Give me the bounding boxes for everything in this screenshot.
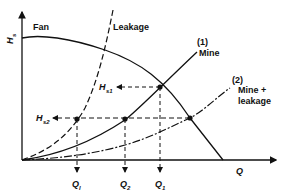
svg-text:H: H — [99, 82, 106, 92]
svg-text:H: H — [5, 37, 15, 44]
svg-text:Q: Q — [72, 179, 79, 189]
mine-curve-number: (1) — [197, 37, 208, 47]
svg-text:s1: s1 — [106, 88, 113, 94]
hs1-projection — [117, 84, 163, 172]
mine-leakage-curve-label-line2: leakage — [238, 96, 271, 106]
svg-text:Q: Q — [155, 179, 162, 189]
q1-label: Q 1 — [155, 179, 166, 191]
leakage-point — [74, 116, 79, 121]
mine-curve — [22, 52, 197, 160]
svg-text:s2: s2 — [43, 119, 50, 125]
mine-leakage-curve-number: (2) — [232, 75, 243, 85]
svg-text:1: 1 — [162, 185, 166, 191]
svg-text:2: 2 — [126, 185, 131, 191]
operating-point-1 — [157, 84, 162, 89]
fan-mine-characteristic-diagram: H s Q Fan Leakage (1) Mine (2) Mine + le… — [0, 0, 287, 193]
svg-text:s: s — [11, 33, 17, 37]
fan-curve-label: Fan — [33, 22, 49, 32]
hs2-label: H s2 — [36, 113, 50, 125]
mine-leakage-curve — [22, 88, 230, 160]
svg-text:l: l — [79, 185, 81, 191]
leakage-curve-label: Leakage — [113, 22, 149, 32]
svg-text:Q: Q — [120, 179, 127, 189]
x-axis-label: Q — [236, 166, 243, 176]
mine-curve-label: Mine — [199, 48, 220, 58]
hs1-label: H s1 — [99, 82, 113, 94]
fan-curve — [22, 37, 223, 161]
y-axis-label: H s — [5, 33, 17, 44]
mine-leakage-curve-label-line1: Mine + — [238, 85, 266, 95]
operating-point-2 — [187, 115, 192, 120]
q2-label: Q 2 — [120, 179, 131, 191]
mine-point-2 — [122, 116, 127, 121]
ql-label: Q l — [72, 179, 81, 191]
svg-text:H: H — [36, 113, 43, 123]
